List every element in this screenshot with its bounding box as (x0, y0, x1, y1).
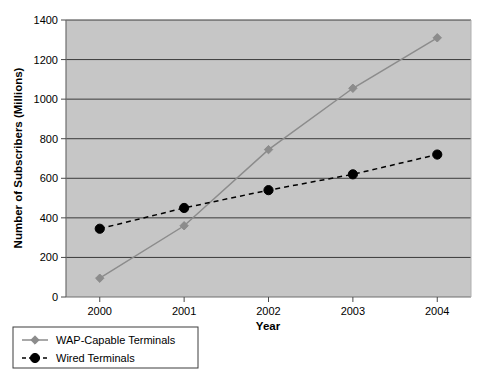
data-point-marker (348, 170, 357, 179)
y-tick-label: 1000 (34, 93, 58, 105)
chart-container: 0200400600800100012001400 20002001200220… (0, 0, 489, 372)
y-tick-label: 400 (40, 212, 58, 224)
y-axis-title: Number of Subscribers (Millions) (12, 67, 24, 248)
x-tick-label: 2000 (88, 305, 112, 317)
x-tick-label: 2004 (425, 305, 449, 317)
line-chart: 0200400600800100012001400 20002001200220… (0, 0, 489, 372)
plot-area-background (66, 20, 471, 297)
y-tick-label: 200 (40, 251, 58, 263)
data-point-marker (95, 224, 104, 233)
chart-legend: WAP-Capable TerminalsWired Terminals (13, 327, 198, 368)
x-axis-title: Year (256, 320, 281, 332)
data-point-marker (264, 186, 273, 195)
x-tick-label: 2002 (256, 305, 280, 317)
data-point-marker (433, 150, 442, 159)
legend-marker (30, 353, 39, 362)
x-tick-label: 2003 (341, 305, 365, 317)
y-tick-label: 0 (52, 291, 58, 303)
y-tick-label: 800 (40, 133, 58, 145)
y-tick-label: 1400 (34, 14, 58, 26)
data-point-marker (180, 203, 189, 212)
y-tick-label: 1200 (34, 54, 58, 66)
y-tick-label: 600 (40, 172, 58, 184)
legend-label: WAP-Capable Terminals (56, 334, 176, 346)
legend-label: Wired Terminals (56, 352, 135, 364)
x-tick-label: 2001 (172, 305, 196, 317)
